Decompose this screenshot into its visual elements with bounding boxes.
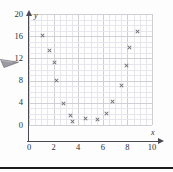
gridline-vertical [109, 14, 110, 125]
gridline-horizontal [29, 108, 152, 109]
y-tick-label: 4 [5, 98, 23, 107]
gridline-vertical [41, 14, 42, 125]
data-point-marker [110, 99, 115, 104]
gridline-vertical [103, 14, 104, 125]
data-point-marker [127, 45, 132, 50]
bottom-rule [0, 167, 173, 169]
x-tick-label: 6 [95, 143, 111, 152]
gridline-horizontal [29, 31, 152, 32]
gridline-vertical [121, 14, 122, 125]
y-axis-arrow-icon [26, 10, 32, 16]
data-point-marker [52, 60, 57, 65]
x-tick-label: 10 [144, 143, 160, 152]
gridline-vertical [127, 14, 128, 125]
plot-area [29, 14, 152, 125]
gridline-horizontal [29, 103, 152, 104]
y-axis [28, 16, 29, 142]
y-tick-label: 8 [5, 76, 23, 85]
x-tick-label: 4 [70, 143, 86, 152]
gridline-vertical [140, 14, 141, 125]
gridline-vertical [84, 14, 85, 125]
y-tick-label: 20 [5, 10, 23, 19]
gridline-vertical [91, 14, 92, 125]
data-point-marker [70, 119, 75, 124]
data-point-marker [54, 78, 59, 83]
gridline-horizontal [29, 119, 152, 120]
gridline-vertical [78, 14, 79, 125]
data-point-marker [124, 63, 129, 68]
gridline-vertical [146, 14, 147, 125]
data-point-marker [104, 111, 109, 116]
data-point-marker [135, 29, 140, 34]
data-point-marker [47, 48, 52, 53]
data-point-marker [40, 33, 45, 38]
gridline-horizontal [29, 125, 152, 126]
data-point-marker [119, 83, 124, 88]
gridline-horizontal [29, 42, 152, 43]
x-axis-label: x [151, 128, 155, 137]
gridline-horizontal [29, 14, 152, 15]
gridline-vertical [66, 14, 67, 125]
arrow-cursor-icon [0, 55, 20, 70]
x-tick-label: 2 [46, 143, 62, 152]
gridline-horizontal [29, 36, 152, 37]
gridline-horizontal [29, 70, 152, 71]
y-tick-label: 0 [5, 121, 23, 130]
gridline-horizontal [29, 97, 152, 98]
gridline-vertical [115, 14, 116, 125]
gridline-vertical [35, 14, 36, 125]
gridline-horizontal [29, 86, 152, 87]
data-point-marker [95, 117, 100, 122]
y-tick-label: 16 [5, 32, 23, 41]
gridline-vertical [54, 14, 55, 125]
data-point-marker [83, 116, 88, 121]
gridline-horizontal [29, 92, 152, 93]
x-tick-label: 0 [21, 143, 37, 152]
gridline-horizontal [29, 58, 152, 59]
gridline-horizontal [29, 114, 152, 115]
gridline-horizontal [29, 20, 152, 21]
gridline-horizontal [29, 25, 152, 26]
gridlines [29, 14, 152, 125]
x-tick-label: 8 [119, 143, 135, 152]
gridline-horizontal [29, 64, 152, 65]
y-axis-label: y [34, 11, 38, 20]
gridline-vertical [47, 14, 48, 125]
gridline-horizontal [29, 75, 152, 76]
gridline-vertical [97, 14, 98, 125]
gridline-vertical [152, 14, 153, 125]
data-point-marker [68, 113, 73, 118]
gridline-vertical [72, 14, 73, 125]
gridline-horizontal [29, 81, 152, 82]
scatter-plot-figure: y x 0246810048121620 [0, 0, 173, 172]
data-point-marker [61, 101, 66, 106]
gridline-vertical [60, 14, 61, 125]
